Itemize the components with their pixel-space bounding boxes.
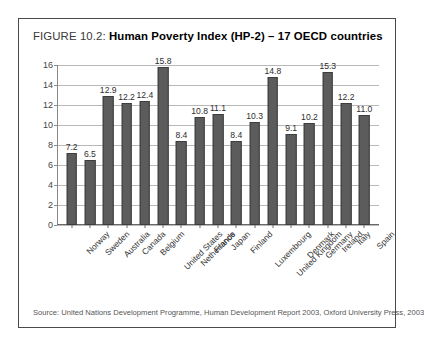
bar[interactable] [176,141,187,225]
bar[interactable] [139,101,150,225]
bar[interactable] [231,141,242,225]
figure-title: FIGURE 10.2: Human Poverty Index (HP-2) … [33,30,383,42]
figure-frame: FIGURE 10.2: Human Poverty Index (HP-2) … [18,18,396,328]
bar-group[interactable]: 11.1 [209,65,227,225]
y-axis-tick-label: 6 [48,160,53,170]
bar[interactable] [158,67,169,225]
x-axis-category-label: Spain [375,229,397,251]
bar[interactable] [103,96,114,225]
y-axis-tick-mark [54,225,57,226]
x-axis-tick-mark [108,225,109,228]
figure-title-text: Human Poverty Index (HP-2) – 17 OECD cou… [109,30,383,42]
bar-value-label: 9.1 [285,123,297,133]
bar-group[interactable]: 6.5 [81,65,99,225]
x-axis-tick-mark [71,225,72,228]
figure-number-label: FIGURE 10.2: [33,30,106,42]
bar-value-label: 12.4 [136,90,153,100]
bar-group[interactable]: 8.4 [172,65,190,225]
x-axis-tick-mark [181,225,182,228]
y-axis-tick-labels: 0246810121416 [23,65,53,225]
bar-value-label: 15.3 [319,61,336,71]
x-axis-tick-mark [199,225,200,228]
bar-group[interactable]: 15.3 [319,65,337,225]
bar-group[interactable]: 10.2 [300,65,318,225]
bar[interactable] [359,115,370,225]
bar-value-label: 12.2 [118,92,135,102]
x-axis-tick-mark [272,225,273,228]
y-axis-tick-label: 8 [48,140,53,150]
bar-group[interactable]: 12.4 [136,65,154,225]
x-axis-category-label: Finland [248,229,274,255]
bar-group[interactable]: 8.4 [227,65,245,225]
bar[interactable] [341,103,352,225]
bar[interactable] [66,153,77,225]
bar-group[interactable]: 7.2 [62,65,80,225]
y-axis-tick-label: 10 [43,120,53,130]
bar-value-label: 8.4 [175,130,187,140]
x-axis-tick-mark [291,225,292,228]
bar-group[interactable]: 12.9 [99,65,117,225]
bar-value-label: 12.2 [338,92,355,102]
x-axis-category-labels: NorwaySwedenAustraliaCanadaBelgiumUnited… [57,229,379,299]
x-axis-tick-mark [346,225,347,228]
x-axis-tick-mark [89,225,90,228]
bar[interactable] [249,122,260,225]
bar-value-label: 10.3 [246,111,263,121]
bar[interactable] [194,117,205,225]
y-axis-tick-label: 12 [43,100,53,110]
x-axis-tick-mark [327,225,328,228]
y-axis-tick-label: 2 [48,200,53,210]
bar-value-label: 6.5 [84,149,96,159]
bar-value-label: 11.1 [210,103,226,113]
bar[interactable] [121,103,132,225]
bar[interactable] [286,134,297,225]
bar[interactable] [268,77,279,225]
bar-value-label: 15.8 [155,56,172,66]
source-note: Source: United Nations Development Progr… [33,308,424,317]
bar-group[interactable]: 12.2 [117,65,135,225]
y-axis-tick-label: 16 [43,60,53,70]
bar[interactable] [213,114,224,225]
bar-group[interactable]: 11.0 [355,65,373,225]
bar-value-label: 10.2 [301,112,318,122]
bar-value-label: 8.4 [230,130,242,140]
bar-value-label: 14.8 [265,66,282,76]
bars-group: 7.26.512.912.212.415.88.410.811.18.410.3… [57,65,379,225]
bar-group[interactable]: 10.3 [245,65,263,225]
bar-group[interactable]: 10.8 [191,65,209,225]
bar-value-label: 11.0 [356,104,372,114]
x-axis-tick-mark [364,225,365,228]
bar-group[interactable]: 14.8 [264,65,282,225]
y-axis-tick-label: 4 [48,180,53,190]
bar[interactable] [322,72,333,225]
y-axis-tick-label: 14 [43,80,53,90]
x-axis-tick-mark [163,225,164,228]
bar[interactable] [85,160,96,225]
bar-value-label: 12.9 [100,85,117,95]
bar-group[interactable]: 15.8 [154,65,172,225]
bar-value-label: 7.2 [66,142,78,152]
y-axis-tick-label: 0 [48,220,53,230]
x-axis-tick-mark [126,225,127,228]
x-axis-tick-mark [217,225,218,228]
bar-group[interactable]: 12.2 [337,65,355,225]
x-axis-tick-mark [254,225,255,228]
bar-group[interactable]: 9.1 [282,65,300,225]
x-axis-tick-mark [236,225,237,228]
x-axis-tick-mark [309,225,310,228]
chart-plot-area: 0246810121416 7.26.512.912.212.415.88.41… [57,65,379,225]
bar-value-label: 10.8 [191,106,208,116]
bar[interactable] [304,123,315,225]
